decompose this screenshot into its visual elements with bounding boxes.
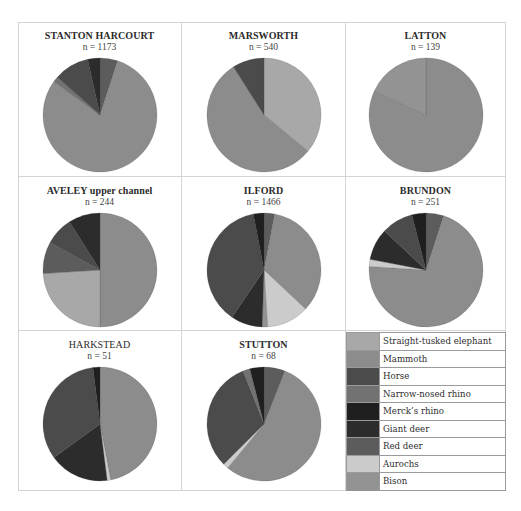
- legend-swatch: [347, 456, 380, 473]
- legend-label: Horse: [380, 368, 505, 385]
- sample-size-label: n = 139: [346, 42, 505, 52]
- sample-size-label: n = 251: [346, 197, 505, 207]
- pie-chart-title: MARSWORTH: [182, 30, 345, 41]
- sample-size-label: n = 1466: [182, 197, 345, 207]
- pie-chart-title: HARKSTEAD: [18, 339, 181, 350]
- pie-chart-panel: STUTTONn = 68: [182, 331, 346, 491]
- legend-item: Narrow-nosed rhino: [347, 386, 505, 404]
- legend-item: Red deer: [347, 438, 505, 456]
- pie-chart: [41, 56, 159, 174]
- sample-size-label: n = 68: [182, 351, 345, 361]
- pie-chart-title: BRUNDON: [346, 185, 505, 196]
- legend-item: Merck’s rhino: [347, 403, 505, 421]
- pie-chart: [205, 56, 323, 174]
- pie-slice: [43, 270, 100, 327]
- pie-chart: [205, 211, 323, 329]
- sample-size-label: n = 51: [18, 351, 181, 361]
- pie-chart-title: AVELEY upper channel: [18, 185, 181, 196]
- legend-swatch: [347, 473, 380, 491]
- pie-chart: [367, 211, 485, 329]
- legend-item: Aurochs: [347, 456, 505, 474]
- pie-chart-panel: STANTON HARCOURTn = 1173: [18, 22, 182, 177]
- pie-chart: [41, 365, 159, 483]
- legend-item: Horse: [347, 368, 505, 386]
- legend-label: Aurochs: [380, 456, 505, 473]
- pie-slice: [100, 213, 157, 327]
- pie-chart-title: STUTTON: [182, 339, 345, 350]
- pie-chart-panel: LATTONn = 139: [346, 22, 506, 177]
- chart-legend: Straight-tusked elephant Mammoth Horse N…: [346, 332, 506, 491]
- legend-swatch: [347, 438, 380, 455]
- sample-size-label: n = 540: [182, 42, 345, 52]
- legend-label: Giant deer: [380, 421, 505, 438]
- legend-swatch: [347, 386, 380, 403]
- legend-swatch: [347, 421, 380, 438]
- legend-item: Bison: [347, 473, 505, 491]
- legend-label: Straight-tusked elephant: [380, 333, 505, 350]
- pie-chart: [205, 365, 323, 483]
- pie-chart-title: STANTON HARCOURT: [18, 30, 181, 41]
- legend-label: Merck’s rhino: [380, 403, 505, 420]
- legend-item: Mammoth: [347, 351, 505, 369]
- pie-chart-panel: BRUNDONn = 251: [346, 177, 506, 331]
- pie-chart: [367, 56, 485, 174]
- legend-label: Bison: [380, 473, 505, 491]
- legend-item: Giant deer: [347, 421, 505, 439]
- legend-swatch: [347, 368, 380, 385]
- pie-chart-title: LATTON: [346, 30, 505, 41]
- pie-chart: [41, 211, 159, 329]
- pie-chart-panel: HARKSTEADn = 51: [18, 331, 182, 491]
- pie-chart-panel: AVELEY upper channeln = 244: [18, 177, 182, 331]
- legend-swatch: [347, 333, 380, 350]
- pie-chart-title: ILFORD: [182, 185, 345, 196]
- legend-label: Mammoth: [380, 351, 505, 368]
- legend-label: Red deer: [380, 438, 505, 455]
- legend-swatch: [347, 403, 380, 420]
- pie-chart-panel: MARSWORTHn = 540: [182, 22, 346, 177]
- legend-item: Straight-tusked elephant: [347, 333, 505, 351]
- pie-slice: [100, 367, 157, 480]
- sample-size-label: n = 244: [18, 197, 181, 207]
- legend-swatch: [347, 351, 380, 368]
- legend-label: Narrow-nosed rhino: [380, 386, 505, 403]
- pie-chart-panel: ILFORDn = 1466: [182, 177, 346, 331]
- sample-size-label: n = 1173: [18, 42, 181, 52]
